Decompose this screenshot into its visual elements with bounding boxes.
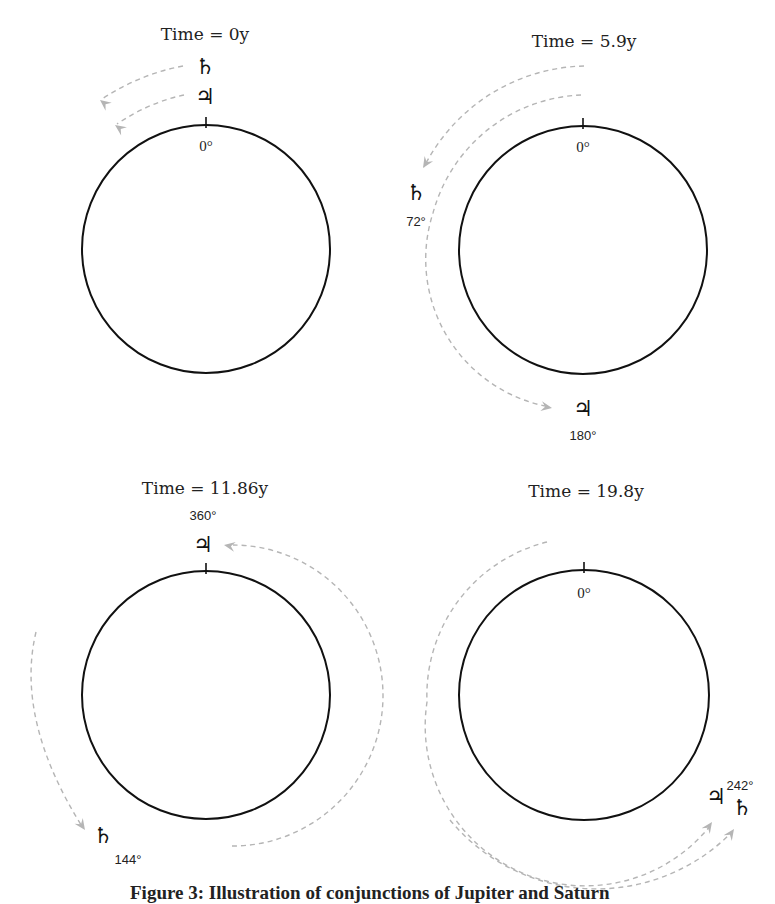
saturn-symbol-icon: ♄ (195, 54, 215, 79)
orbit-circle (459, 126, 707, 374)
panel-title: Time = 19.8y (528, 481, 644, 501)
arrowhead-icon (223, 540, 236, 552)
angle-label: 360° (190, 508, 217, 523)
angle-label: 144° (115, 852, 142, 867)
arrowhead-icon (702, 819, 717, 834)
panel-t0: Time = 0y0°♄♃ (82, 24, 330, 373)
zero-degree-label: 0° (576, 139, 590, 155)
motion-arc (450, 820, 731, 889)
zero-degree-label: 0° (577, 585, 591, 601)
angle-label: 72° (406, 214, 426, 229)
panels-group: Time = 0y0°♄♃Time = 5.9y0°♄♃72°180°Time … (31, 24, 753, 889)
panel-t11_86: Time = 11.86y♃♄360°144° (31, 478, 383, 867)
saturn-symbol-icon: ♄ (93, 823, 113, 848)
motion-arc (425, 542, 710, 886)
jupiter-symbol-icon: ♃ (706, 784, 726, 809)
arrowhead-icon (540, 401, 553, 413)
zero-degree-label: 0° (199, 138, 213, 154)
arrowhead-icon (419, 156, 433, 171)
orbit-circle (82, 571, 330, 819)
angle-label: 180° (570, 428, 597, 443)
arrowhead-icon (75, 818, 90, 833)
arrowhead-icon (112, 121, 127, 136)
motion-arc (232, 545, 383, 846)
motion-arc (117, 95, 184, 124)
jupiter-symbol-icon: ♃ (193, 532, 213, 557)
orbit-circle (82, 125, 330, 373)
motion-arc (426, 95, 581, 406)
panel-title: Time = 0y (161, 24, 250, 44)
orbit-circle (459, 570, 709, 820)
figure-caption: Figure 3: Illustration of conjunctions o… (130, 882, 690, 904)
angle-label: 242° (727, 778, 754, 793)
panel-title: Time = 11.86y (142, 478, 269, 498)
panel-t5_9: Time = 5.9y0°♄♃72°180° (406, 31, 707, 443)
saturn-symbol-icon: ♄ (406, 180, 426, 205)
panel-t19_8: Time = 19.8y0°♃♄242° (425, 481, 753, 889)
panel-title: Time = 5.9y (532, 31, 637, 51)
motion-arc (424, 66, 584, 167)
saturn-symbol-icon: ♄ (732, 795, 752, 820)
motion-arc (102, 66, 183, 99)
jupiter-symbol-icon: ♃ (573, 396, 593, 421)
jupiter-symbol-icon: ♃ (195, 84, 215, 109)
motion-arc (31, 632, 83, 828)
